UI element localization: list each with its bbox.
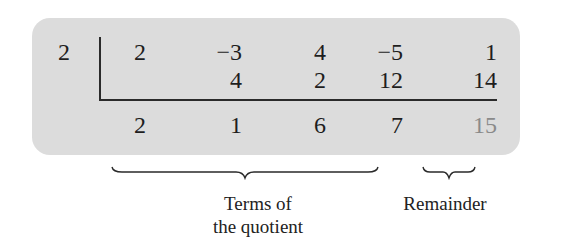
product-2: 4 [182,68,242,92]
division-horizontal-line [99,99,497,101]
coefficient-4: −5 [343,40,403,64]
coefficient-1: 2 [86,40,146,64]
coefficient-2: −3 [182,40,242,64]
quotient-term-4: 7 [343,113,403,137]
remainder-value: 15 [437,113,497,137]
quotient-label-line2: the quotient [178,215,338,238]
product-5: 14 [437,68,497,92]
product-4: 12 [343,68,403,92]
product-3: 2 [266,68,326,92]
coefficient-5: 1 [437,40,497,64]
quotient-label: Terms of the quotient [178,192,338,238]
remainder-brace [421,166,477,182]
quotient-term-3: 6 [266,113,326,137]
quotient-term-1: 2 [86,113,146,137]
coefficient-3: 4 [266,40,326,64]
divisor: 2 [58,40,70,64]
quotient-brace [110,166,380,182]
quotient-label-line1: Terms of [178,192,338,215]
remainder-label: Remainder [390,192,500,215]
quotient-term-2: 1 [182,113,242,137]
